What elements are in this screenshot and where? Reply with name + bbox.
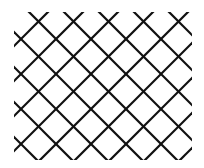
- backslash-line: [0, 0, 112, 168]
- slash-line: [0, 0, 80, 168]
- slash-line: [105, 0, 204, 168]
- crosshatch-lattice: [0, 0, 204, 168]
- lattice-lines: [0, 0, 204, 168]
- slash-line: [35, 0, 204, 168]
